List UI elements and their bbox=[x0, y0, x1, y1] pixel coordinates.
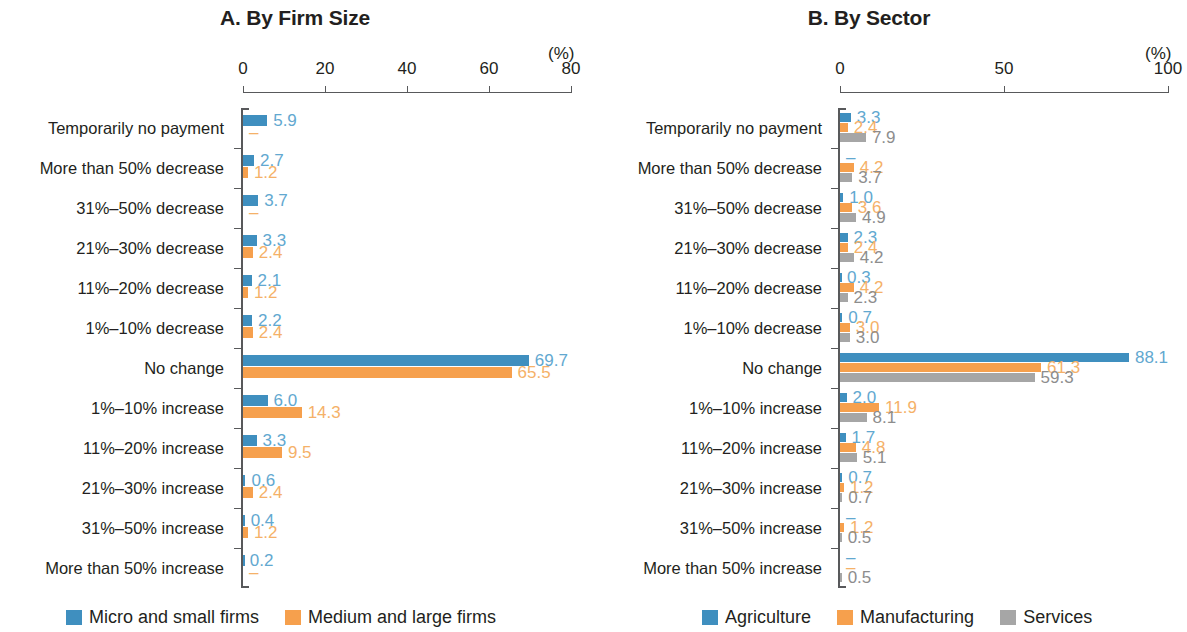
y-axis-tick bbox=[234, 548, 241, 549]
bar bbox=[840, 313, 842, 322]
x-axis-tick bbox=[571, 86, 572, 93]
y-axis-tick bbox=[831, 308, 838, 309]
category-label: 1%–10% increase bbox=[689, 399, 822, 418]
bar bbox=[840, 373, 1035, 382]
legend-item[interactable]: Manufacturing bbox=[837, 607, 974, 628]
value-label: 65.5 bbox=[518, 363, 551, 383]
y-axis-tick bbox=[234, 188, 241, 189]
bar bbox=[840, 393, 847, 402]
panel-b-by-sector: B. By Sector (%) 050100Temporarily no pa… bbox=[594, 0, 1187, 632]
bar bbox=[243, 327, 253, 338]
legend-item[interactable]: Medium and large firms bbox=[285, 607, 496, 628]
y-axis-tick bbox=[234, 508, 241, 509]
x-axis-tick-label: 50 bbox=[995, 59, 1014, 79]
bar bbox=[243, 555, 245, 566]
legend-swatch-icon bbox=[285, 610, 301, 625]
value-label: 4.9 bbox=[862, 208, 886, 228]
category-label: Temporarily no payment bbox=[48, 119, 224, 138]
x-axis-tick bbox=[325, 86, 326, 93]
value-label: – bbox=[249, 203, 258, 223]
y-axis-tick bbox=[831, 388, 838, 389]
bar bbox=[840, 483, 844, 492]
category-label: Temporarily no payment bbox=[646, 119, 822, 138]
value-label: 2.3 bbox=[854, 288, 878, 308]
value-label: – bbox=[249, 123, 258, 143]
value-label: 59.3 bbox=[1041, 368, 1074, 388]
x-axis-tick-label: 0 bbox=[835, 59, 844, 79]
bar bbox=[840, 573, 842, 582]
value-label: 4.2 bbox=[860, 248, 884, 268]
category-label: 21%–30% increase bbox=[680, 479, 822, 498]
bar bbox=[243, 167, 248, 178]
y-axis-tick bbox=[234, 268, 241, 269]
x-axis-tick bbox=[840, 86, 841, 93]
x-axis-tick bbox=[489, 86, 490, 93]
x-axis-tick-label: 80 bbox=[562, 59, 581, 79]
bar bbox=[840, 113, 851, 122]
bar bbox=[243, 367, 512, 378]
bar bbox=[840, 203, 852, 212]
x-axis-tick-label: 40 bbox=[398, 59, 417, 79]
category-label: 1%–10% increase bbox=[91, 399, 224, 418]
bar bbox=[243, 515, 245, 526]
value-label: 5.9 bbox=[273, 111, 297, 131]
category-label: More than 50% increase bbox=[643, 559, 822, 578]
legend-label: Agriculture bbox=[725, 607, 811, 628]
value-label: 1.2 bbox=[254, 163, 278, 183]
y-axis-tick bbox=[234, 148, 241, 149]
y-axis-tick bbox=[831, 228, 838, 229]
y-axis-cap bbox=[838, 586, 846, 588]
panel-a-by-firm-size: A. By Firm Size (%) 020406080Temporarily… bbox=[0, 0, 594, 632]
category-label: 11%–20% increase bbox=[83, 439, 224, 458]
legend-swatch-icon bbox=[837, 610, 853, 625]
value-label: 2.4 bbox=[259, 243, 283, 263]
value-label: 14.3 bbox=[308, 403, 341, 423]
legend-item[interactable]: Services bbox=[1000, 607, 1092, 628]
bar bbox=[243, 287, 248, 298]
bar bbox=[840, 453, 857, 462]
legend-label: Medium and large firms bbox=[308, 607, 496, 628]
value-label: 8.1 bbox=[873, 408, 897, 428]
bar bbox=[840, 173, 852, 182]
bar bbox=[840, 123, 848, 132]
y-axis-tick bbox=[831, 468, 838, 469]
bar bbox=[243, 475, 245, 486]
bar bbox=[840, 243, 848, 252]
category-label: 31%–50% increase bbox=[82, 519, 224, 538]
y-axis-tick bbox=[831, 148, 838, 149]
bar bbox=[840, 493, 842, 502]
category-label: 1%–10% decrease bbox=[85, 319, 224, 338]
y-axis-tick bbox=[831, 188, 838, 189]
bar bbox=[243, 355, 529, 366]
legend-swatch-icon bbox=[1000, 610, 1016, 625]
y-axis-tick bbox=[234, 428, 241, 429]
bar bbox=[840, 293, 848, 302]
x-axis-tick bbox=[407, 86, 408, 93]
dual-bar-chart-figure: A. By Firm Size (%) 020406080Temporarily… bbox=[0, 0, 1187, 632]
bar bbox=[840, 533, 842, 542]
bar bbox=[243, 527, 248, 538]
bar bbox=[840, 253, 854, 262]
bar bbox=[243, 447, 282, 458]
category-label: 11%–20% decrease bbox=[676, 279, 822, 298]
x-axis-tick bbox=[1004, 86, 1005, 93]
category-label: 21%–30% increase bbox=[82, 479, 224, 498]
value-label: 88.1 bbox=[1135, 348, 1168, 368]
category-label: 31%–50% increase bbox=[680, 519, 822, 538]
category-label: 11%–20% decrease bbox=[78, 279, 224, 298]
bar bbox=[243, 407, 302, 418]
panel-b-title: B. By Sector bbox=[604, 6, 1134, 30]
bar bbox=[243, 487, 253, 498]
legend-item[interactable]: Micro and small firms bbox=[66, 607, 259, 628]
bar bbox=[840, 193, 843, 202]
y-axis-cap bbox=[241, 586, 249, 588]
y-axis-tick bbox=[234, 468, 241, 469]
value-label: 9.5 bbox=[288, 443, 312, 463]
y-axis-tick bbox=[234, 388, 241, 389]
panel-a-legend: Micro and small firmsMedium and large fi… bbox=[66, 607, 522, 628]
value-label: 1.2 bbox=[254, 283, 278, 303]
bar bbox=[243, 247, 253, 258]
category-label: 21%–30% decrease bbox=[674, 239, 822, 258]
legend-item[interactable]: Agriculture bbox=[702, 607, 811, 628]
y-axis-tick bbox=[831, 348, 838, 349]
